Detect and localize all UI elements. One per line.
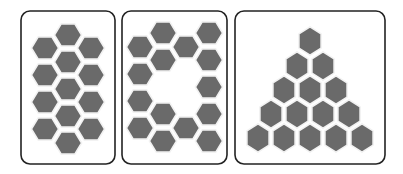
hexagon-tile <box>195 103 222 125</box>
hexagon-tile <box>286 100 308 128</box>
hexagon-tile <box>172 117 199 139</box>
hexagon-tile <box>286 52 308 80</box>
panel-ring-arrangement <box>122 11 227 164</box>
hexagon-tile <box>312 100 334 128</box>
hexagon-tile <box>126 63 153 85</box>
hexagon-tile <box>54 78 81 100</box>
hexagon-tiling-diagram <box>0 0 403 174</box>
hexagon-tile <box>299 76 321 104</box>
hexagon-tile <box>126 90 153 112</box>
hexagon-tile <box>338 100 360 128</box>
hexagon-tile <box>31 91 58 113</box>
panel-column-arrangement <box>21 11 115 164</box>
hexagon-tile <box>195 49 222 71</box>
hexagon-tile <box>54 132 81 154</box>
hexagon-tile <box>195 22 222 44</box>
hexagon-tile <box>77 37 104 59</box>
hexagon-tile <box>54 24 81 46</box>
hexagon-tile <box>325 124 347 152</box>
hexagon-tile <box>273 124 295 152</box>
hexagon-tile <box>172 36 199 58</box>
hexagon-tile <box>77 118 104 140</box>
hexagon-tile <box>77 64 104 86</box>
hexagon-tile <box>351 124 373 152</box>
hexagon-tile <box>126 117 153 139</box>
hexagon-tile <box>77 91 104 113</box>
hexagon-tile <box>149 103 176 125</box>
hexagon-tile <box>273 76 295 104</box>
hexagon-tile <box>149 22 176 44</box>
hexagon-tile <box>54 105 81 127</box>
hexagon-tile <box>195 130 222 152</box>
hexagon-tile <box>149 49 176 71</box>
hexagon-tile <box>31 37 58 59</box>
hexagon-tile <box>126 36 153 58</box>
hexagon-tile <box>54 51 81 73</box>
hexagon-tile <box>312 52 334 80</box>
hexagon-tile <box>31 64 58 86</box>
hexagon-tile <box>31 118 58 140</box>
hexagon-tile <box>149 130 176 152</box>
hexagon-tile <box>325 76 347 104</box>
hexagon-tile <box>260 100 282 128</box>
hexagon-tile <box>247 124 269 152</box>
hexagon-tile <box>195 76 222 98</box>
panel-triangle-arrangement <box>235 11 385 164</box>
hexagon-tile <box>299 124 321 152</box>
hexagon-tile <box>299 27 321 55</box>
